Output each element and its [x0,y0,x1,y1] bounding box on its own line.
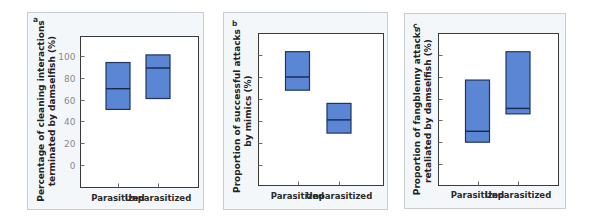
panel-a-box-unparasitized [146,55,170,99]
panel-a-box-parasitized [106,63,130,110]
panel-a-ytick-label: 40 [64,117,76,127]
panel-a-ylabel-line1: Percentage of cleaning interactions [36,20,46,201]
panel-b-ylabel-line2: by mimics (%) [243,75,253,146]
panel-b-box-parasitized [286,52,310,90]
panel-b-category-label: Unparasitized [306,191,372,201]
panel-b-letter: b [232,19,238,28]
panel-c-ylabel-line2: retaliated by damselfish (%) [423,39,433,183]
panel-a-ytick-label: 100 [58,52,75,62]
panel-b: b Proportion of successful attacks by mi… [224,13,388,210]
panel-c-box-parasitized [466,80,490,142]
panel-c: c Proportion of fangblenny attacks retal… [405,14,566,209]
panel-a-ytick-label: 20 [64,139,76,149]
figure: a Percentage of cleaning interactions te… [0,0,597,220]
panel-a: a Percentage of cleaning interactions te… [28,13,204,210]
panel-b-ylabel-line1: Proportion of successful attacks [232,29,242,193]
panel-b-plot-area [259,34,384,186]
panel-c-category-label: Unparasitized [485,190,551,200]
panel-a-ylabel-line2: terminated by damselfish (%) [47,36,57,186]
panel-c-plot-area [439,34,559,186]
panel-a-plot-area [81,37,199,188]
panel-a-ytick-label: 60 [64,96,76,106]
panel-a-ytick-label: 80 [64,74,76,84]
panel-b-box-unparasitized [327,103,351,133]
panel-a-ytick-label: 0 [70,161,76,171]
panel-c-ylabel-line1: Proportion of fangblenny attacks [412,27,422,195]
panel-c-box-unparasitized [506,52,530,114]
panel-a-category-label: Unparasitized [125,193,191,203]
